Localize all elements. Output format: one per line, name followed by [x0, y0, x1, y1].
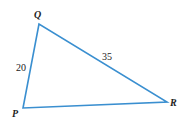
side-label-pq: 20	[16, 62, 26, 73]
vertex-label-q: Q	[34, 9, 41, 20]
triangle-pqr	[23, 24, 167, 108]
vertex-label-r: R	[169, 97, 177, 108]
triangle-diagram: Q P R 20 35	[0, 0, 184, 120]
vertex-label-p: P	[12, 108, 19, 119]
side-label-qr: 35	[102, 51, 112, 62]
